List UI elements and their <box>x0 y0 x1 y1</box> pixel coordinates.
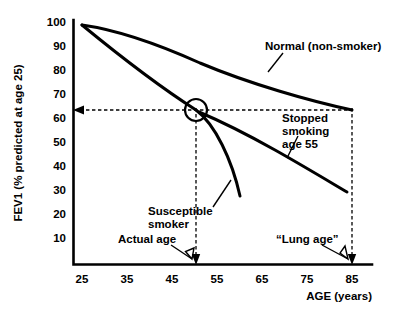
normal-curve-label: Normal (non-smoker) <box>265 40 381 52</box>
y-tick-label: 40 <box>53 160 66 172</box>
x-tick-label: 45 <box>166 273 179 285</box>
y-axis-tick-labels: 100 90 80 70 60 50 40 30 20 10 <box>47 16 66 244</box>
y-tick-label: 70 <box>53 88 66 100</box>
y-tick-label: 20 <box>53 208 66 220</box>
susceptible-label-leader <box>213 180 231 207</box>
y-tick-label: 100 <box>47 16 66 28</box>
actual-age-label: Actual age <box>118 233 176 245</box>
annotations-group: Normal (non-smoker) Stopped smoking age … <box>118 40 381 245</box>
chart-canvas: 100 90 80 70 60 50 40 30 20 10 25 35 45 … <box>0 0 405 309</box>
series-normal-non-smoker <box>82 25 352 110</box>
x-tick-label: 75 <box>301 273 314 285</box>
actual-age-leader <box>171 245 192 259</box>
stopped-smoking-label-line-2: smoking <box>282 125 329 137</box>
y-tick-label: 10 <box>53 232 66 244</box>
fletcher-peto-chart: 100 90 80 70 60 50 40 30 20 10 25 35 45 … <box>0 0 405 309</box>
lung-age-label: “Lung age” <box>276 233 339 245</box>
y-axis-title: FEV1 (% predicted at age 25) <box>12 64 24 221</box>
x-axis-tick-labels: 25 35 45 55 65 75 85 <box>76 273 359 285</box>
axes-group <box>74 20 373 265</box>
x-tick-label: 25 <box>76 273 89 285</box>
y-tick-label: 30 <box>53 184 66 196</box>
normal-label-leader <box>268 53 283 72</box>
stopped-smoking-label-line-3: age 55 <box>282 138 318 150</box>
actual-age-leader-arrowhead-icon <box>186 248 195 259</box>
stopped-smoking-label-line-1: Stopped <box>282 112 328 124</box>
series-stopped-smoking-age-55 <box>199 112 347 192</box>
susceptible-smoker-label-line-1: Susceptible <box>148 205 213 217</box>
x-tick-label: 55 <box>211 273 224 285</box>
axis-lines <box>74 20 373 265</box>
x-tick-label: 35 <box>121 273 134 285</box>
x-tick-label: 65 <box>256 273 269 285</box>
susceptible-smoker-label-line-2: smoker <box>148 218 189 230</box>
y-tick-label: 60 <box>53 112 66 124</box>
y-tick-label: 80 <box>53 64 66 76</box>
y-tick-label: 50 <box>53 136 66 148</box>
x-axis-title: AGE (years) <box>306 290 372 302</box>
x-tick-label: 85 <box>346 273 359 285</box>
y-tick-label: 90 <box>53 40 66 52</box>
